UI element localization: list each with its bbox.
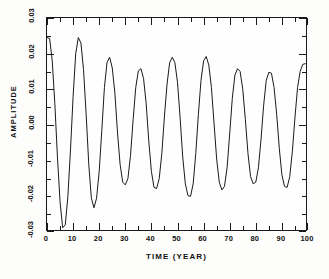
tick-mark <box>302 179 306 180</box>
tick-mark <box>269 226 270 230</box>
tick-mark <box>299 89 306 90</box>
tick-mark <box>47 231 54 232</box>
x-tick-label: 80 <box>250 234 259 243</box>
tick-mark <box>256 18 257 25</box>
tick-mark <box>299 18 306 19</box>
x-tick-label: 60 <box>198 234 207 243</box>
tick-mark <box>230 18 231 25</box>
x-axis-title: TIME (YEAR) <box>46 252 307 261</box>
x-tick-label: 90 <box>277 234 286 243</box>
y-tick-label: -0.03 <box>18 225 44 234</box>
tick-mark <box>302 36 306 37</box>
tick-mark <box>302 214 306 215</box>
tick-mark <box>47 107 51 108</box>
tick-mark <box>60 18 61 22</box>
y-tick-label: 0.03 <box>18 11 44 20</box>
tick-mark <box>47 214 51 215</box>
tick-mark <box>299 231 306 232</box>
tick-mark <box>302 72 306 73</box>
tick-mark <box>302 107 306 108</box>
tick-mark <box>47 72 51 73</box>
x-tick-label: 20 <box>94 234 103 243</box>
tick-mark <box>302 161 306 162</box>
tick-mark <box>307 18 308 25</box>
tick-mark <box>243 18 244 22</box>
tick-mark <box>243 226 244 230</box>
tick-mark <box>299 125 306 126</box>
x-tick-label: 30 <box>120 234 129 243</box>
x-tick-label: 10 <box>68 234 77 243</box>
tick-mark <box>282 18 283 25</box>
tick-mark <box>47 54 54 55</box>
x-tick-label: 40 <box>146 234 155 243</box>
tick-mark <box>302 196 306 197</box>
tick-mark <box>178 18 179 25</box>
tick-mark <box>112 18 113 22</box>
tick-mark <box>125 223 126 230</box>
tick-mark <box>86 18 87 22</box>
tick-mark <box>295 18 296 22</box>
y-tick-label: -0.02 <box>18 189 44 198</box>
tick-mark <box>112 226 113 230</box>
tick-mark <box>307 223 308 230</box>
tick-mark <box>47 143 51 144</box>
tick-mark <box>86 226 87 230</box>
tick-mark <box>204 18 205 25</box>
tick-mark <box>47 18 54 19</box>
tick-mark <box>47 36 51 37</box>
x-tick-label: 0 <box>44 234 48 243</box>
tick-mark <box>217 18 218 22</box>
tick-mark <box>138 18 139 22</box>
tick-mark <box>60 226 61 230</box>
y-tick-label: -0.01 <box>18 154 44 163</box>
tick-mark <box>302 143 306 144</box>
y-tick-label: 0.02 <box>18 47 44 56</box>
tick-mark <box>282 223 283 230</box>
tick-mark <box>191 226 192 230</box>
tick-mark <box>217 226 218 230</box>
tick-mark <box>125 18 126 25</box>
tick-mark <box>47 161 51 162</box>
tick-mark <box>47 223 48 230</box>
tick-mark <box>99 223 100 230</box>
tick-mark <box>138 226 139 230</box>
tick-mark <box>191 18 192 22</box>
tick-mark <box>47 196 51 197</box>
tick-mark <box>204 223 205 230</box>
x-tick-label: 50 <box>172 234 181 243</box>
tick-mark <box>73 18 74 25</box>
tick-mark <box>151 223 152 230</box>
tick-mark <box>230 223 231 230</box>
tick-mark <box>151 18 152 25</box>
tick-mark <box>164 18 165 22</box>
tick-mark <box>295 226 296 230</box>
tick-mark <box>99 18 100 25</box>
tick-mark <box>269 18 270 22</box>
tick-mark <box>47 18 48 25</box>
tick-mark <box>256 223 257 230</box>
y-tick-label: 0.01 <box>18 82 44 91</box>
y-axis-title: AMPLITUDE <box>9 67 18 157</box>
tick-mark <box>299 54 306 55</box>
tick-mark <box>47 89 54 90</box>
amplitude-line-series <box>47 18 308 232</box>
tick-mark <box>47 179 51 180</box>
tick-mark <box>164 226 165 230</box>
tick-mark <box>47 125 54 126</box>
x-tick-label: 70 <box>224 234 233 243</box>
tick-mark <box>73 223 74 230</box>
tick-mark <box>178 223 179 230</box>
plot-area <box>46 17 307 231</box>
y-tick-label: 0.00 <box>18 118 44 127</box>
x-tick-label: 100 <box>300 234 313 243</box>
figure-canvas: AMPLITUDE -0.03-0.02-0.010.000.010.020.0… <box>0 0 329 279</box>
